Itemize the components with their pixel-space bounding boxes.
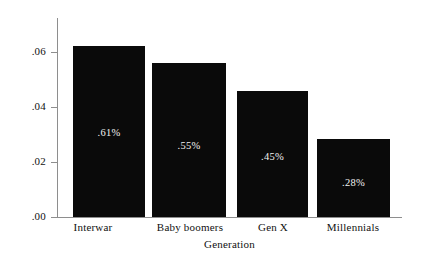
- bar-gen-x[interactable]: .45%: [237, 91, 308, 217]
- bar-baby-boomers[interactable]: .55%: [152, 63, 226, 217]
- plot-area: .61% .55% .45% .28%: [57, 18, 402, 217]
- y-tick-label-1: .02: [2, 155, 46, 167]
- x-category-label-interwar: Interwar: [43, 221, 143, 233]
- y-tick-label-3: .06: [2, 45, 46, 57]
- x-category-label-millennials: Millennials: [303, 221, 403, 233]
- y-tick-label-0: .00: [2, 210, 46, 222]
- bar-interwar[interactable]: .61%: [73, 46, 145, 217]
- bar-value-label-gen-x: .45%: [237, 151, 308, 162]
- bar-value-label-interwar: .61%: [73, 127, 145, 138]
- x-axis-title: Generation: [57, 238, 402, 250]
- bar-value-label-baby-boomers: .55%: [152, 140, 226, 151]
- bar-chart: % Voted Leave .06 .04 .02 .00 .61% .55% …: [0, 0, 426, 259]
- bar-millennials[interactable]: .28%: [317, 139, 390, 217]
- bar-value-label-millennials: .28%: [317, 177, 390, 188]
- y-tick-mark-0: [51, 217, 57, 218]
- y-tick-label-2: .04: [2, 100, 46, 112]
- x-axis-line: [57, 217, 402, 218]
